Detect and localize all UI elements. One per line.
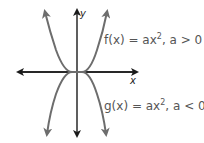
- g-label-suffix: , a < 0: [165, 99, 204, 113]
- f-label: f(x) = ax2, a > 0: [104, 32, 202, 47]
- x-axis-label: x: [130, 75, 136, 86]
- graph: [0, 0, 204, 143]
- curve-g: [47, 72, 72, 134]
- y-axis-label: y: [80, 8, 86, 19]
- g-label: g(x) = ax2, a < 0: [104, 98, 204, 113]
- curve-f: [45, 12, 72, 72]
- f-label-suffix: , a > 0: [162, 33, 202, 47]
- curve-g-right: [82, 72, 106, 134]
- g-label-text: g(x) = ax: [104, 99, 160, 113]
- f-label-text: f(x) = ax: [104, 33, 157, 47]
